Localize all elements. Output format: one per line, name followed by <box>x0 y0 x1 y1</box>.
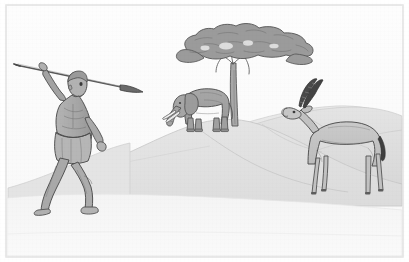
hunter-eye <box>79 82 82 86</box>
hunter-fist <box>97 142 106 151</box>
illustration-frame: A hunter hurls a spear across the savann… <box>0 0 409 262</box>
savanna-hunting-scene <box>0 0 409 262</box>
antelope-eye <box>293 111 296 113</box>
antelope-leg-rear-near <box>366 156 371 193</box>
elephant-eye <box>179 102 181 104</box>
hunter-foot-front <box>81 207 98 214</box>
hunter-ear <box>69 85 72 90</box>
